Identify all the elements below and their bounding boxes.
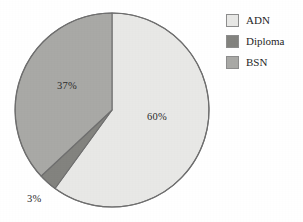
pie-chart-graphic: 60% 37% 3% [0,0,222,222]
legend-item-diploma[interactable]: Diploma [226,31,303,51]
legend-label-adn: ADN [246,15,270,26]
legend-item-bsn[interactable]: BSN [226,52,303,72]
legend-item-adn[interactable]: ADN [226,10,303,30]
legend-label-bsn: BSN [246,57,267,68]
legend-swatch-adn [226,14,239,27]
slice-label-adn: 60% [147,112,167,123]
chart-legend: ADN Diploma BSN [226,10,303,73]
slice-label-bsn: 37% [57,81,77,92]
legend-label-diploma: Diploma [246,36,285,47]
pie-chart-figure: 60% 37% 3% ADN Diploma BSN [0,0,303,222]
legend-swatch-bsn [226,56,239,69]
pie-svg [0,0,222,222]
slice-label-diploma: 3% [27,194,41,205]
legend-swatch-diploma [226,35,239,48]
